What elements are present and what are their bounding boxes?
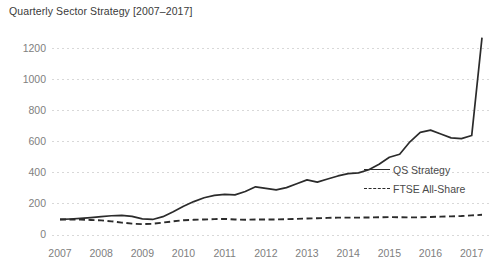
x-tick-label-2016: 2016 xyxy=(409,247,453,259)
x-tick-label-2017: 2017 xyxy=(450,247,494,259)
legend-swatch-dashed-line-icon xyxy=(364,184,390,194)
legend-label: FTSE All-Share xyxy=(393,183,465,195)
chart-container: Quarterly Sector Strategy [2007–2017] 02… xyxy=(0,0,496,277)
x-tick-label-2008: 2008 xyxy=(79,247,123,259)
y-tick-label-400: 400 xyxy=(6,166,46,178)
legend-swatch-solid-line-icon xyxy=(364,165,390,175)
gridlines xyxy=(52,49,490,235)
y-tick-label-1200: 1200 xyxy=(6,42,46,54)
x-tick-label-2015: 2015 xyxy=(367,247,411,259)
x-tick-label-2009: 2009 xyxy=(120,247,164,259)
x-tick-label-2012: 2012 xyxy=(244,247,288,259)
y-tick-label-1000: 1000 xyxy=(6,73,46,85)
legend-item-ftse-all-share[interactable]: FTSE All-Share xyxy=(364,179,465,198)
y-tick-label-0: 0 xyxy=(6,228,46,240)
chart-legend: QS StrategyFTSE All-Share xyxy=(364,160,465,198)
x-tick-label-2010: 2010 xyxy=(162,247,206,259)
y-tick-label-600: 600 xyxy=(6,135,46,147)
x-tick-label-2007: 2007 xyxy=(38,247,82,259)
x-tick-label-2013: 2013 xyxy=(285,247,329,259)
legend-item-qs-strategy[interactable]: QS Strategy xyxy=(364,160,465,179)
x-tick-label-2011: 2011 xyxy=(203,247,247,259)
legend-label: QS Strategy xyxy=(393,164,450,176)
plot-area xyxy=(0,0,496,277)
x-tick-label-2014: 2014 xyxy=(326,247,370,259)
y-tick-label-200: 200 xyxy=(6,197,46,209)
y-tick-label-800: 800 xyxy=(6,104,46,116)
